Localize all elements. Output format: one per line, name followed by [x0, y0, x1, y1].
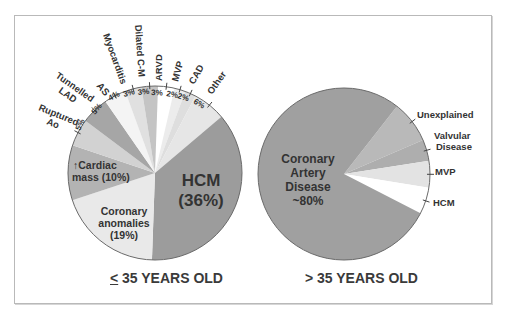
- label-valvular: Valvular: [434, 130, 471, 141]
- label-dilated-cm: Dilated C-M: [133, 24, 148, 77]
- pie-charts: HCM (36%) Coronary anomalies (19%) ↑Card…: [0, 0, 506, 314]
- pie-chart-over-35: [258, 88, 434, 260]
- label-cad: CAD: [186, 63, 206, 86]
- label-valvular-2: Disease: [436, 141, 472, 152]
- label-mvp-right: MVP: [435, 166, 456, 177]
- pct-dilated: 3%: [137, 87, 149, 97]
- label-cardiac-mass-2: mass (10%): [72, 171, 130, 183]
- label-coronary-anomalies-2: anomalies: [98, 217, 150, 229]
- label-arvd: ARVD: [153, 54, 164, 81]
- label-hcm-pct: (36%): [178, 191, 223, 210]
- label-other: Other: [205, 69, 229, 96]
- label-unexplained: Unexplained: [417, 109, 474, 120]
- label-coronary-anomalies: Coronary: [101, 205, 148, 217]
- label-coronary-anomalies-pct: (19%): [110, 229, 138, 241]
- title-over-35: > 35 YEARS OLD: [305, 270, 418, 286]
- label-hcm-right: HCM: [433, 197, 455, 208]
- label-myocarditis: Myocarditis: [101, 32, 129, 85]
- title-under-35-text: 35 YEARS OLD: [118, 270, 223, 286]
- less-equal-sign: <: [110, 270, 118, 286]
- label-cad-right: Coronary: [281, 152, 335, 166]
- title-under-35: < 35 YEARS OLD: [110, 270, 223, 286]
- label-mvp: MVP: [169, 59, 185, 82]
- label-cad-right-3: Disease: [285, 180, 331, 194]
- label-cad-right-2: Artery: [290, 166, 326, 180]
- label-cardiac-mass: ↑Cardiac: [73, 159, 117, 171]
- label-cad-right-pct: ~80%: [292, 194, 323, 208]
- label-hcm: HCM: [182, 171, 221, 190]
- pct-arvd: 3%: [151, 88, 163, 98]
